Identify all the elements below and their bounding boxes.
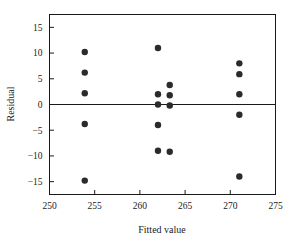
data-point: [236, 173, 242, 179]
y-tick-label: 10: [33, 48, 43, 58]
y-tick-label: −5: [32, 126, 42, 136]
data-point: [82, 90, 88, 96]
data-point: [236, 60, 242, 66]
data-point: [155, 45, 161, 51]
data-point: [155, 122, 161, 128]
y-axis-title: Residual: [5, 86, 16, 121]
y-tick-label: −15: [28, 177, 43, 187]
y-tick-label: 5: [38, 74, 43, 84]
y-axis-tick-labels: 151050−5−10−15: [28, 23, 43, 187]
x-tick-label: 255: [88, 201, 103, 211]
x-tick-label: 250: [42, 201, 57, 211]
data-point: [155, 101, 161, 107]
data-point: [82, 177, 88, 183]
data-point: [167, 82, 173, 88]
data-point: [82, 121, 88, 127]
data-point: [167, 92, 173, 98]
x-tick-label: 260: [133, 201, 148, 211]
x-axis-title: Fitted value: [138, 224, 186, 235]
y-tick-label: 15: [33, 23, 43, 33]
data-point: [236, 71, 242, 77]
x-tick-label: 275: [268, 201, 283, 211]
data-point: [155, 148, 161, 154]
scatter-plot-canvas: 250255260265270275 151050−5−10−15 Fitted…: [0, 0, 302, 242]
x-axis-ticks: [50, 190, 276, 195]
data-point: [82, 49, 88, 55]
data-point: [236, 112, 242, 118]
x-tick-label: 270: [223, 201, 238, 211]
data-points-group: [82, 45, 243, 184]
data-point: [155, 91, 161, 97]
y-tick-label: 0: [38, 100, 43, 110]
data-point: [236, 91, 242, 97]
x-tick-label: 265: [178, 201, 193, 211]
data-point: [167, 149, 173, 155]
residual-plot-figure: 250255260265270275 151050−5−10−15 Fitted…: [0, 0, 302, 242]
data-point: [167, 102, 173, 108]
x-axis-tick-labels: 250255260265270275: [42, 201, 283, 211]
y-tick-label: −10: [28, 151, 43, 161]
data-point: [82, 69, 88, 75]
